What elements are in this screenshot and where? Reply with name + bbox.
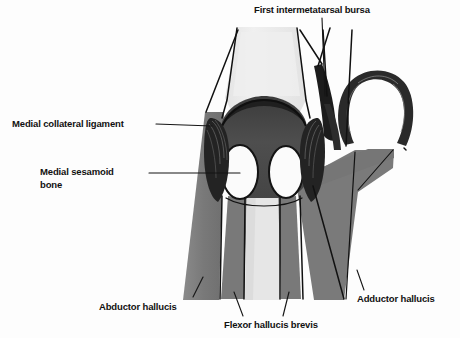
anatomical-figure: First intermetatarsal bursa Medial colla… — [0, 0, 460, 338]
label-adductor-hallucis: Adductor hallucis — [357, 293, 435, 306]
label-medial-sesamoid-bone: Medial sesamoid bone — [40, 166, 150, 191]
label-medial-collateral-ligament: Medial collateral ligament — [12, 118, 124, 131]
label-abductor-hallucis: Abductor hallucis — [99, 301, 177, 314]
label-flexor-hallucis-brevis: Flexor hallucis brevis — [224, 319, 318, 332]
label-first-intermetatarsal-bursa: First intermetatarsal bursa — [254, 4, 370, 17]
lateral-sesamoid-bone — [269, 146, 303, 198]
metatarsal-head-speckle — [233, 32, 300, 96]
